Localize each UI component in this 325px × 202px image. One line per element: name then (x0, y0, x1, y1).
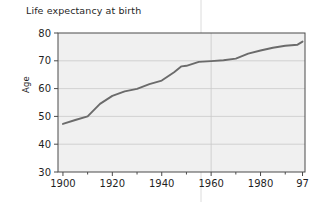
x-tick-label: 1900 (50, 178, 75, 189)
x-tick-label: 97 (296, 178, 309, 189)
x-tick-label: 1980 (248, 178, 273, 189)
y-tick-label: 60 (38, 83, 51, 94)
y-tick-label: 50 (38, 111, 51, 122)
y-tick-label: 70 (38, 55, 51, 66)
x-tick-label: 1920 (100, 178, 125, 189)
y-tick-label: 30 (38, 167, 51, 178)
x-tick-label: 1940 (149, 178, 174, 189)
y-tick-label: 40 (38, 139, 51, 150)
y-axis-ticks: 304050607080 (38, 28, 58, 178)
life-expectancy-chart: Life expectancy at birth Age 30405060708… (0, 0, 325, 202)
x-axis-ticks: 1900192019401960198097 (50, 172, 309, 189)
x-tick-label: 1960 (198, 178, 223, 189)
plot-area: 304050607080 1900192019401960198097 (0, 0, 325, 202)
y-tick-label: 80 (38, 28, 51, 39)
plot-background (58, 33, 305, 172)
